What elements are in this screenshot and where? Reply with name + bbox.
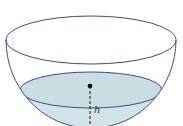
- surface-center-dot: [88, 84, 93, 89]
- water-surface: [20, 72, 162, 108]
- height-label: h: [94, 104, 100, 115]
- bowl-rim: [6, 16, 176, 64]
- bowl-diagram: h: [0, 0, 183, 126]
